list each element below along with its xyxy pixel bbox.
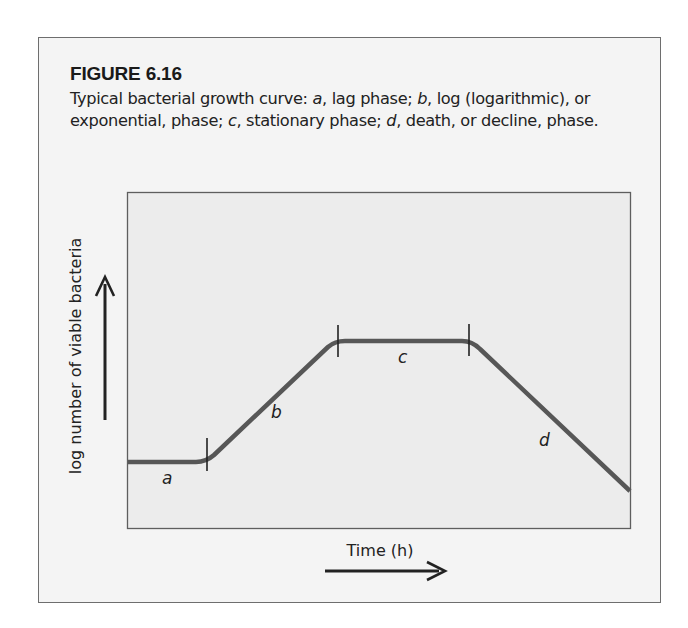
phase-label-a: a [162,468,172,488]
phase-label-d: d [539,430,550,450]
phase-label-b: b [271,402,282,422]
x-axis-label: Time (h) [346,541,414,560]
plot-area [128,193,631,529]
y-axis-label: log number of viable bacteria [66,238,85,474]
growth-chart: a b c d log number of viable bacteria Ti… [0,0,688,628]
phase-label-c: c [398,347,408,367]
y-axis-arrow-icon [96,277,114,420]
x-axis-arrow-icon [325,562,445,580]
